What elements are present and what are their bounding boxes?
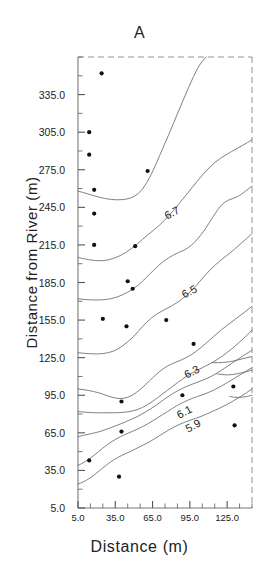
contour-plot-figure: A Distance from River (m) 335.0305.0275.… <box>0 0 279 575</box>
x-axis-title: Distance (m) <box>0 538 279 556</box>
x-axis-tick-labels: 5.035.065.095.0125.0 <box>0 512 279 532</box>
data-point <box>101 317 105 321</box>
data-point <box>87 153 91 157</box>
data-point <box>100 71 104 75</box>
contour-line-6-3 <box>78 330 252 413</box>
x-tick-label: 5.0 <box>71 512 84 523</box>
data-point <box>92 211 96 215</box>
plot-canvas: 6.76.56.36.15.9 <box>0 0 279 575</box>
data-point <box>191 342 195 346</box>
contour-label-6-3: 6.3 <box>182 363 201 381</box>
x-tick-label: 35.0 <box>106 512 125 523</box>
contour-line-6-1 <box>78 350 252 436</box>
contour-label-5-9: 5.9 <box>183 417 202 435</box>
x-tick-label: 125.0 <box>215 512 239 523</box>
data-point <box>117 475 121 479</box>
contour-line-6-7 <box>78 140 252 261</box>
data-point <box>146 169 150 173</box>
data-point <box>126 279 130 283</box>
data-point <box>231 384 235 388</box>
data-point <box>180 393 184 397</box>
data-point <box>133 244 137 248</box>
contour-line-6-7 <box>78 57 206 200</box>
data-point <box>87 130 91 134</box>
x-tick-label: 95.0 <box>181 512 200 523</box>
contour-line-5-9 <box>78 389 252 484</box>
contour-line-5-9 <box>78 368 252 466</box>
data-point <box>119 429 123 433</box>
contour-line-6-5 <box>78 186 252 300</box>
data-point <box>92 188 96 192</box>
data-point <box>87 458 91 462</box>
data-point <box>131 287 135 291</box>
contour-label-6-7: 6.7 <box>162 204 181 222</box>
data-point <box>164 318 168 322</box>
data-point <box>124 324 128 328</box>
contour-line-6-1 <box>212 356 252 362</box>
data-point <box>233 423 237 427</box>
x-tick-label: 65.0 <box>143 512 162 523</box>
data-point <box>119 399 123 403</box>
data-point <box>92 243 96 247</box>
contour-line-6-5 <box>78 234 252 354</box>
